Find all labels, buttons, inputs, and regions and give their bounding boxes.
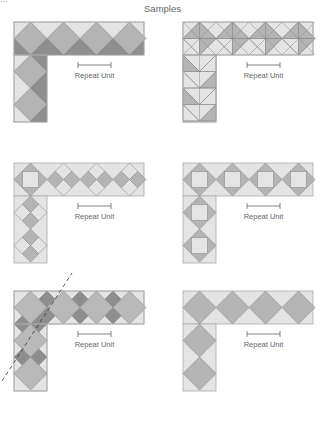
sample-panel-large-diamond-dark-shadow: Repeat Unit [14, 22, 146, 124]
repeat-unit-label: Repeat Unit [75, 71, 116, 80]
repeat-unit-label: Repeat Unit [244, 71, 285, 80]
page-title: Samples [0, 3, 325, 14]
repeat-unit-marker: Repeat Unit [75, 62, 116, 80]
repeat-unit-marker: Repeat Unit [244, 203, 285, 221]
repeat-unit-label: Repeat Unit [75, 340, 116, 349]
sample-panel-half-square-triangles: Repeat Unit [183, 22, 315, 124]
repeat-unit-marker: Repeat Unit [244, 62, 285, 80]
repeat-unit-marker: Repeat Unit [75, 331, 116, 349]
repeat-unit-label: Repeat Unit [244, 212, 285, 221]
repeat-unit-label: Repeat Unit [75, 212, 116, 221]
repeat-unit-marker: Repeat Unit [244, 331, 285, 349]
sample-panel-large-diamond-plain: Repeat Unit [183, 291, 315, 393]
sample-panel-square-in-diamond: Repeat Unit [183, 163, 315, 265]
sample-panel-large-diamond-small-dark-diamonds: Repeat Unit [14, 291, 146, 393]
sample-panel-small-diamonds-checker: Repeat Unit [14, 163, 146, 265]
repeat-unit-marker: Repeat Unit [75, 203, 116, 221]
repeat-unit-label: Repeat Unit [244, 340, 285, 349]
